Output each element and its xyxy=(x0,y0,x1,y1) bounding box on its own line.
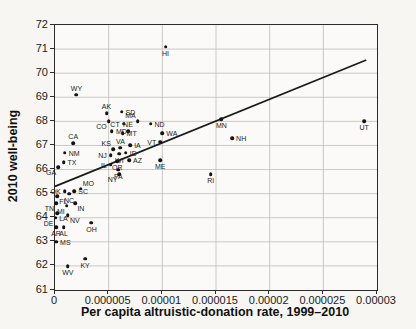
point-label-NM: NM xyxy=(69,149,80,156)
data-point-ID xyxy=(124,151,128,155)
y-tick-mark xyxy=(50,168,54,169)
data-point-DE xyxy=(54,216,58,220)
data-point-SC xyxy=(73,189,77,193)
y-tick-label-62: 62 xyxy=(16,259,48,270)
y-tick-label-70: 70 xyxy=(16,67,48,78)
point-label-OH: OH xyxy=(86,226,97,233)
data-point-CA xyxy=(71,141,75,145)
y-tick-label-67: 67 xyxy=(16,139,48,150)
point-label-MO: MO xyxy=(83,180,94,187)
y-tick-mark xyxy=(50,72,54,73)
y-tick-mark xyxy=(50,216,54,217)
data-point-SD xyxy=(120,110,124,114)
y-tick-label-72: 72 xyxy=(16,19,48,30)
data-point-WV xyxy=(66,264,70,268)
data-point-MN xyxy=(220,117,224,121)
y-tick-label-65: 65 xyxy=(16,187,48,198)
x-tick-mark xyxy=(54,290,55,294)
x-axis-title: Per capita altruistic-donation rate, 199… xyxy=(81,305,349,319)
point-label-AZ: AZ xyxy=(133,156,142,163)
data-point-WI xyxy=(118,152,122,156)
y-tick-mark xyxy=(50,24,54,25)
data-point-MS xyxy=(54,240,58,244)
y-tick-label-68: 68 xyxy=(16,115,48,126)
x-tick-label-0.000015: 0.000015 xyxy=(192,295,238,306)
point-label-TX: TX xyxy=(68,159,77,166)
y-tick-label-63: 63 xyxy=(16,235,48,246)
data-point-WA xyxy=(161,132,165,136)
y-tick-label-64: 64 xyxy=(16,211,48,222)
data-point-AL xyxy=(62,226,66,230)
data-point-OH xyxy=(90,221,94,225)
point-label-IN: IN xyxy=(77,205,84,212)
x-tick-mark xyxy=(107,290,108,294)
data-point-GA xyxy=(56,165,60,169)
point-label-AL: AL xyxy=(59,230,68,237)
y-tick-mark xyxy=(50,48,54,49)
data-point-MI xyxy=(65,204,69,208)
point-label-MN: MN xyxy=(216,122,227,129)
data-point-HI xyxy=(164,45,168,49)
data-point-OK xyxy=(63,189,67,193)
x-tick-mark xyxy=(268,290,269,294)
point-label-ME: ME xyxy=(155,163,166,170)
y-tick-label-71: 71 xyxy=(16,43,48,54)
data-point-MD xyxy=(110,129,114,133)
data-point-OR xyxy=(115,159,119,163)
point-label-AK: AK xyxy=(102,103,111,110)
point-label-NJ: NJ xyxy=(98,152,107,159)
x-tick-label-0.00003: 0.00003 xyxy=(356,295,396,306)
y-tick-label-69: 69 xyxy=(16,91,48,102)
data-point-NH xyxy=(230,136,234,140)
x-tick-mark xyxy=(215,290,216,294)
plot-area: HIWYSDAKMNUTMACOCTNDMDNEWAMTNHVTCAIAVAKS… xyxy=(54,24,378,291)
y-tick-mark xyxy=(50,192,54,193)
data-point-ME xyxy=(158,158,162,162)
scatter-figure: 2010 well-being HIWYSDAKMNUTMACOCTNDMDNE… xyxy=(0,0,416,329)
data-point-VT xyxy=(158,140,162,144)
y-tick-mark xyxy=(50,264,54,265)
data-point-MT xyxy=(121,132,125,136)
point-label-CO: CO xyxy=(96,123,107,130)
point-label-WY: WY xyxy=(71,85,82,92)
data-point-RI xyxy=(209,173,213,177)
data-point-KY xyxy=(83,257,87,261)
point-label-HI: HI xyxy=(162,50,169,57)
point-label-NY: NY xyxy=(108,176,118,183)
data-point-WY xyxy=(75,93,79,97)
point-label-SC: SC xyxy=(78,188,88,195)
data-point-NC xyxy=(67,192,71,196)
point-label-RI: RI xyxy=(207,177,214,184)
x-tick-label-0.000005: 0.000005 xyxy=(85,295,131,306)
point-label-MS: MS xyxy=(60,238,71,245)
point-label-WA: WA xyxy=(166,130,177,137)
data-point-PA xyxy=(117,168,121,172)
y-tick-label-61: 61 xyxy=(16,284,48,295)
data-point-ND xyxy=(149,122,153,126)
x-tick-label-0.000025: 0.000025 xyxy=(299,295,345,306)
data-point-VA xyxy=(119,146,123,150)
point-label-VT: VT xyxy=(147,138,156,145)
y-tick-label-66: 66 xyxy=(16,163,48,174)
data-point-MA xyxy=(136,120,140,124)
point-label-UT: UT xyxy=(359,124,368,131)
point-label-NE: NE xyxy=(123,121,133,128)
data-point-AR xyxy=(54,226,58,230)
data-point-IL xyxy=(109,163,113,167)
point-label-IA: IA xyxy=(134,142,141,149)
y-tick-mark xyxy=(50,240,54,241)
y-tick-mark xyxy=(50,120,54,121)
data-point-KS xyxy=(111,147,115,151)
data-point-AK xyxy=(105,111,109,115)
point-label-VA: VA xyxy=(116,138,125,145)
data-point-AZ xyxy=(127,158,131,162)
x-tick-mark xyxy=(322,290,323,294)
point-label-NH: NH xyxy=(236,135,246,142)
point-label-WV: WV xyxy=(62,269,73,276)
data-point-TX xyxy=(62,161,66,165)
data-point-IA xyxy=(128,144,132,148)
point-label-ID: ID xyxy=(130,149,137,156)
point-label-NV: NV xyxy=(70,217,80,224)
point-label-KS: KS xyxy=(102,140,111,147)
data-point-UT xyxy=(362,120,366,124)
